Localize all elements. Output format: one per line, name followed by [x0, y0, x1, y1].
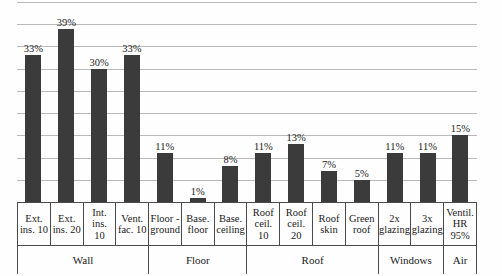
category-label-cell: Base.floor: [182, 203, 215, 245]
category-label-cell: Ext.ins. 20: [51, 203, 84, 245]
category-label-line: ground: [150, 224, 180, 236]
bar-column: 11%: [247, 2, 280, 202]
bar: [255, 153, 271, 202]
bar-column: 1%: [181, 2, 214, 202]
bar: [321, 171, 337, 202]
bar-chart: 33%39%30%33%11%1%8%11%13%7%5%11%11%15% E…: [0, 0, 502, 276]
bar-column: 39%: [50, 2, 83, 202]
bar: [452, 135, 468, 202]
category-label-line: roof: [353, 224, 371, 236]
group-label-text: Wall: [73, 254, 94, 266]
bar-column: 8%: [214, 2, 247, 202]
bar-value-label: 1%: [191, 186, 205, 197]
group-label-cell: Air: [444, 246, 477, 274]
category-label-cell: Floor -ground: [149, 203, 182, 245]
category-label-line: glazing: [412, 224, 443, 236]
category-label-line: floor: [188, 224, 208, 236]
bar: [58, 29, 74, 202]
plot-area: 33%39%30%33%11%1%8%11%13%7%5%11%11%15%: [17, 2, 477, 202]
category-label-cell: Roofceil. 20: [280, 203, 313, 245]
category-label-line: ceiling: [216, 224, 245, 236]
category-label-line: 95%: [450, 230, 469, 242]
category-label-line: HR: [453, 218, 468, 230]
category-label-line: Base.: [219, 213, 242, 225]
group-label-cell: Windows: [379, 246, 445, 274]
group-label-text: Floor: [186, 254, 210, 266]
category-label-cell: Base.ceiling: [215, 203, 248, 245]
bar: [420, 153, 436, 202]
category-label-line: ceil. 10: [248, 218, 278, 241]
bar-value-label: 11%: [254, 141, 273, 152]
bar-column: 5%: [345, 2, 378, 202]
category-label-cell: 2xglazing: [379, 203, 412, 245]
category-label-line: Green: [349, 213, 375, 225]
category-label-line: Roof: [286, 207, 307, 219]
group-label-text: Roof: [302, 254, 324, 266]
bar-column: 30%: [83, 2, 116, 202]
bar-value-label: 15%: [451, 123, 470, 134]
bar-column: 11%: [148, 2, 181, 202]
bar: [387, 153, 403, 202]
category-label-line: 10: [94, 230, 105, 242]
bar-column: 33%: [17, 2, 50, 202]
bar-value-label: 11%: [418, 141, 437, 152]
category-label-cell: Int. ins.10: [84, 203, 117, 245]
category-label-line: Int. ins.: [85, 207, 115, 230]
bar-value-label: 5%: [355, 168, 369, 179]
category-label-cell: Ext.ins. 10: [18, 203, 51, 245]
group-label-text: Windows: [390, 254, 432, 266]
category-label-line: 2x: [389, 213, 400, 225]
category-label-line: ceil. 20: [281, 218, 311, 241]
bar-column: 33%: [116, 2, 149, 202]
bar-column: 15%: [444, 2, 477, 202]
category-label-line: glazing: [379, 224, 410, 236]
category-label-cell: Ventil.HR95%: [444, 203, 477, 245]
bar-value-label: 8%: [223, 154, 237, 165]
bar: [222, 166, 238, 202]
category-label-cell: Roofskin: [313, 203, 346, 245]
bar-column: 13%: [280, 2, 313, 202]
bar: [288, 144, 304, 202]
bar-column: 7%: [313, 2, 346, 202]
category-label-line: Ext.: [58, 213, 75, 225]
bar-value-label: 11%: [385, 141, 404, 152]
bar-value-label: 39%: [57, 17, 76, 28]
category-label-cell: Roofceil. 10: [247, 203, 280, 245]
group-label-text: Air: [453, 254, 468, 266]
category-label-line: ins. 20: [53, 224, 81, 236]
bar: [157, 153, 173, 202]
category-label-line: Base.: [186, 213, 209, 225]
bar-value-label: 11%: [155, 141, 174, 152]
bar: [25, 55, 41, 202]
category-label-line: ins. 10: [20, 224, 48, 236]
category-label-line: 3x: [422, 213, 433, 225]
category-label-line: skin: [320, 224, 338, 236]
bar-value-label: 13%: [287, 132, 306, 143]
category-label-line: Floor -: [151, 213, 180, 225]
bar: [354, 180, 370, 202]
category-label-line: Roof: [253, 207, 274, 219]
bar: [91, 69, 107, 202]
bar-value-label: 33%: [122, 43, 141, 54]
group-label-cell: Floor: [149, 246, 247, 274]
group-label-cell: Wall: [18, 246, 149, 274]
group-label-cell: Roof: [247, 246, 378, 274]
category-label-line: Ext.: [25, 213, 42, 225]
bar-series: 33%39%30%33%11%1%8%11%13%7%5%11%11%15%: [17, 2, 477, 202]
bar-column: 11%: [378, 2, 411, 202]
group-label-row: WallFloorRoofWindowsAir: [17, 246, 477, 274]
bar: [124, 55, 140, 202]
bar-column: 11%: [411, 2, 444, 202]
bar-value-label: 33%: [24, 43, 43, 54]
category-label-line: Vent.: [121, 213, 143, 225]
bar-value-label: 30%: [89, 57, 108, 68]
bar-value-label: 7%: [322, 159, 336, 170]
category-label-cell: 3xglazing: [411, 203, 444, 245]
category-label-line: Ventil.: [446, 207, 474, 219]
category-label-cell: Greenroof: [346, 203, 379, 245]
category-label-line: fac. 10: [118, 224, 147, 236]
category-label-line: Roof: [318, 213, 339, 225]
category-label-cell: Vent.fac. 10: [116, 203, 149, 245]
category-label-table: Ext.ins. 10Ext.ins. 20Int. ins.10Vent.fa…: [17, 202, 477, 246]
